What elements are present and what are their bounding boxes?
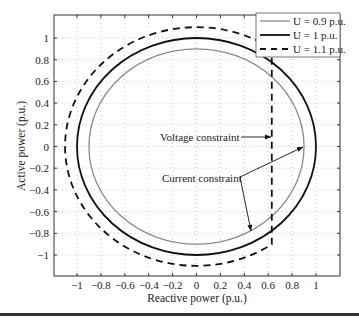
legend: U = 0.9 p.u. U = 1 p.u. U = 1.1 p.u. (256, 13, 346, 57)
pq-capability-chart: −1−0.8−0.6−0.4−0.200.20.40.60.8110.80.60… (0, 0, 359, 319)
x-tick-label: −0.2 (163, 279, 183, 291)
y-tick-label: −0.8 (29, 227, 49, 239)
y-tick-label: 0.6 (35, 75, 49, 87)
y-tick-label: −0.4 (29, 184, 49, 196)
y-tick-label: 1 (44, 32, 50, 44)
annotation-arrow (240, 177, 251, 231)
x-tick-label: 1 (313, 279, 319, 291)
y-axis-label: Active power (p.u.) (15, 101, 28, 191)
x-tick-label: −0.4 (139, 279, 159, 291)
x-tick-label: 0.6 (261, 279, 275, 291)
annotations: Voltage constraint Current constraint (160, 131, 303, 231)
y-tick-label: 0.8 (35, 54, 49, 66)
y-tick-label: −0.2 (29, 162, 49, 174)
x-tick-label: 0.2 (214, 279, 228, 291)
current-constraint-label: Current constraint (162, 172, 242, 184)
legend-label-1.0: U = 1 p.u. (293, 29, 338, 41)
legend-label-1.1: U = 1.1 p.u. (293, 43, 346, 55)
voltage-constraint-label: Voltage constraint (160, 131, 240, 143)
x-tick-label: 0.8 (285, 279, 299, 291)
curve-1 (77, 38, 316, 255)
curve-1.1 (65, 27, 272, 266)
x-tick-label: 0.4 (237, 279, 251, 291)
x-axis-label: Reactive power (p.u.) (147, 292, 247, 305)
bottom-divider (0, 313, 359, 316)
y-tick-label: 0 (44, 141, 50, 153)
y-tick-label: 0.2 (35, 119, 49, 131)
x-tick-label: −1 (71, 279, 83, 291)
y-tick-label: −1 (37, 249, 49, 261)
y-tick-label: 0.4 (35, 97, 49, 109)
legend-label-0.9: U = 0.9 p.u. (293, 15, 346, 27)
x-tick-label: 0 (194, 279, 200, 291)
y-tick-label: −0.6 (29, 206, 49, 218)
x-tick-label: −0.8 (91, 279, 111, 291)
x-tick-label: −0.6 (115, 279, 135, 291)
